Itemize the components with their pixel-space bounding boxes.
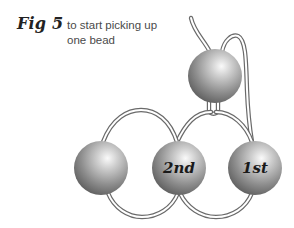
figure-5-diagram: Fig 5 to start picking up one bead — [0, 0, 294, 228]
bead-label-1st: 1st — [242, 159, 268, 177]
bead-first: 1st — [228, 141, 282, 195]
bead-left — [74, 141, 128, 195]
bead-top — [188, 49, 242, 103]
bead-label-2nd: 2nd — [162, 159, 195, 177]
bead-thread-illustration: 2nd 1st — [0, 0, 294, 228]
bead-second: 2nd — [152, 141, 206, 195]
